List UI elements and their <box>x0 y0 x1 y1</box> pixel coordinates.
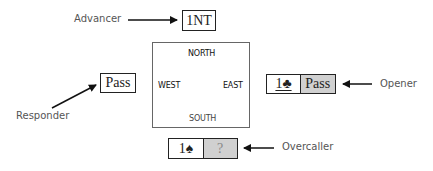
responder-bid-pass: Pass <box>100 73 136 93</box>
advancer-label: Advancer <box>74 13 121 24</box>
opener-bid-1-club-text: 1♣ <box>275 76 291 92</box>
compass-south: SOUTH <box>189 114 216 123</box>
compass-east: EAST <box>223 81 243 90</box>
overcaller-bid-unknown: ? <box>203 138 238 159</box>
compass-north: NORTH <box>188 49 215 58</box>
overcaller-bid-1-spade: 1♠ <box>168 138 204 159</box>
opener-bid-1-club: 1♣ <box>266 74 301 94</box>
opener-bid-pass: Pass <box>300 74 337 94</box>
advancer-bid-1nt: 1NT <box>182 10 216 31</box>
responder-label: Responder <box>16 110 69 121</box>
compass-west: WEST <box>158 81 180 90</box>
overcaller-label: Overcaller <box>282 141 333 152</box>
opener-label: Opener <box>380 78 417 89</box>
compass-table: NORTH WEST EAST SOUTH <box>152 42 250 128</box>
responder-arrow-icon <box>52 85 96 108</box>
